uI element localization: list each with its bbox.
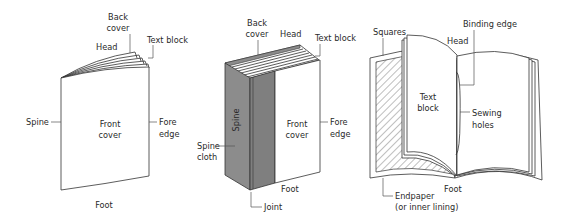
label-joint: Joint xyxy=(263,202,283,212)
label-head: Head xyxy=(96,42,117,52)
label-spine: Spine xyxy=(26,117,49,127)
label-text-block-1: Text xyxy=(419,92,437,102)
label-front-cover-1: Front xyxy=(100,119,121,129)
label-front-cover-2: cover xyxy=(99,130,122,140)
label-fore-edge-2: edge xyxy=(330,129,350,139)
label-spine: Spine xyxy=(231,109,241,132)
figure-hardcover: Back cover Head Text block Spine Spine c… xyxy=(197,18,356,212)
label-text-block: Text block xyxy=(314,33,356,43)
book-anatomy-diagram: Back cover Head Text block Spine Front c… xyxy=(0,0,563,223)
label-squares: Squares xyxy=(373,27,406,37)
label-fore-edge-1: Fore xyxy=(330,117,348,127)
label-text-block-2: block xyxy=(417,103,439,113)
label-front-cover-1: Front xyxy=(287,119,308,129)
label-endpaper-2: (or inner lining) xyxy=(395,202,458,212)
label-foot: Foot xyxy=(281,184,299,194)
label-spine-cloth-2: cloth xyxy=(197,152,217,162)
label-head: Head xyxy=(280,29,301,39)
label-text-block: Text block xyxy=(146,35,188,45)
figure-open-book: Squares Binding edge Head Text block Sew… xyxy=(370,19,542,212)
label-foot: Foot xyxy=(444,184,462,194)
label-back-cover-1: Back xyxy=(247,18,267,28)
label-endpaper-1: Endpaper xyxy=(395,191,435,201)
label-fore-edge-1: Fore xyxy=(159,117,177,127)
label-front-cover-2: cover xyxy=(286,130,309,140)
label-foot: Foot xyxy=(95,200,113,210)
label-sewing-holes-1: Sewing xyxy=(472,108,502,118)
label-fore-edge-2: edge xyxy=(159,129,179,139)
label-back-cover-1: Back xyxy=(108,12,128,22)
figure-pamphlet: Back cover Head Text block Spine Front c… xyxy=(26,12,188,210)
label-binding-edge: Binding edge xyxy=(463,19,517,29)
label-head: Head xyxy=(447,36,468,46)
spine-cloth-front xyxy=(250,71,275,190)
label-sewing-holes-2: holes xyxy=(472,120,494,130)
label-back-cover-2: cover xyxy=(246,29,269,39)
label-back-cover-2: cover xyxy=(107,23,130,33)
